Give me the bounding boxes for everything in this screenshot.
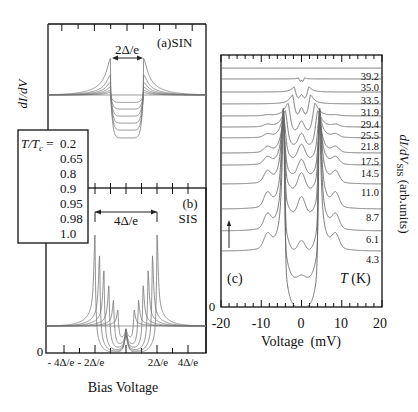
curve-c-T-21.8	[221, 116, 382, 157]
panel-c-title: (c)	[227, 271, 243, 287]
y-label-main: dI/dV	[397, 135, 412, 166]
panel-a-y-axis-label: dI/dV	[15, 78, 30, 109]
panel-c: 39.235.033.531.929.425.521.817.514.511.0…	[209, 55, 412, 350]
curve-c-T-35.0	[221, 78, 382, 81]
legend-item: 0.2	[60, 136, 76, 151]
panel-b-y-zero-label: 0	[37, 344, 44, 359]
temperature-direction-arrow	[227, 220, 231, 248]
temperature-label: 31.9	[361, 107, 379, 118]
curve-b-t-0.65	[46, 256, 206, 351]
curve-c-T-11.0	[221, 109, 382, 212]
panel-b-curves	[46, 235, 206, 352]
temperature-label: 25.5	[361, 130, 379, 141]
panel-b-x-axis-label: Bias Voltage	[88, 380, 159, 395]
arrow-up-icon	[227, 220, 231, 226]
legend-item: 0.95	[60, 196, 83, 211]
panel-a-curves	[48, 58, 206, 138]
curve-c-T-6.1	[221, 110, 382, 277]
panel-b-x-tick-label: - 2Δ/e	[78, 356, 105, 368]
arrow-left-icon	[95, 210, 101, 215]
panel-c-x-tick-label: 10	[334, 316, 348, 331]
legend-item: 1.0	[60, 226, 76, 241]
panel-c-x-axis-label: Voltage (mV)	[261, 334, 341, 350]
curve-a-t-0.95	[48, 90, 206, 109]
temperature-label: 14.5	[361, 168, 379, 179]
panel-c-x-tick-label: 0	[298, 316, 305, 331]
temperature-label: 6.1	[366, 234, 379, 245]
curve-a-t-0.2	[48, 58, 206, 138]
panel-b-x-tick-label: - 4Δ/e	[48, 356, 75, 368]
temperature-label: 39.2	[361, 71, 379, 82]
curve-b-t-0.95	[46, 300, 206, 343]
curve-c-T-17.5	[221, 123, 382, 174]
panel-a-title: (a)SIN	[157, 35, 193, 50]
panel-a-ticks	[62, 24, 192, 31]
legend-title-main: T/T	[21, 136, 40, 151]
figure: (a)SIN 2Δ/e dI/dV (b) SIS 4Δ/e - 4Δ/e - …	[0, 0, 418, 412]
panel-c-y-axis-label: dI/dVSIS (arb.units)	[395, 135, 412, 234]
legend-title-unit: (K)	[348, 271, 371, 287]
panel-c-ticks	[221, 55, 382, 307]
temperature-label: 8.7	[366, 212, 379, 223]
legend-item: 0.9	[60, 181, 76, 196]
legend-item: 0.65	[60, 151, 83, 166]
panel-c-legend-title: T (K)	[340, 271, 371, 287]
curve-b-t-0.8	[46, 271, 206, 350]
panel-c-x-tick-label: -20	[212, 316, 231, 331]
legend: T/Tc = 0.2 0.65 0.8 0.9 0.95 0.98 1.0	[18, 130, 88, 243]
panel-c-y-zero-label: 0	[209, 299, 216, 314]
arrow-right-icon	[151, 210, 157, 215]
temperature-label: 21.8	[361, 141, 379, 152]
legend-item: 0.8	[60, 166, 76, 181]
legend-title-eq: =	[43, 136, 54, 151]
panel-a-gap-annotation: 2Δ/e	[115, 42, 139, 57]
legend-item: 0.98	[60, 211, 83, 226]
temperature-label: 4.3	[366, 254, 379, 265]
y-label-sub: SIS	[395, 163, 405, 176]
panel-c-x-tick-label: 20	[373, 316, 387, 331]
curve-b-t-0.9	[46, 286, 206, 347]
panel-b-gap-annotation: 4Δ/e	[114, 213, 138, 228]
panel-c-x-tick-label: -10	[252, 316, 271, 331]
curve-c-T-31.9	[221, 95, 382, 114]
legend-title: T/Tc =	[21, 136, 54, 153]
panel-b-x-tick-label: 2Δ/e	[148, 356, 169, 368]
arrow-right-icon	[137, 56, 143, 61]
temperature-label: 35.0	[361, 82, 379, 93]
panel-b-title: SIS	[179, 211, 198, 226]
panel-b-title-letter: (b)	[182, 196, 197, 211]
temperature-label: 17.5	[361, 156, 379, 167]
temperature-label: 33.5	[361, 95, 379, 106]
curve-c-T-8.7	[221, 108, 382, 249]
temperature-label: 29.4	[361, 119, 380, 130]
curve-b-t-0.2	[46, 235, 206, 352]
panel-c-frame	[221, 55, 382, 307]
curve-c-T-33.5	[221, 87, 382, 98]
temperature-label: 11.0	[361, 187, 379, 198]
curve-c-T-14.5	[221, 120, 382, 188]
panel-c-temperature-labels: 39.235.033.531.929.425.521.817.514.511.0…	[361, 71, 380, 265]
panel-b-x-tick-label: 4Δ/e	[178, 356, 199, 368]
curve-a-t-0.9	[48, 87, 206, 116]
y-label-unit: (arb.units)	[397, 176, 412, 233]
